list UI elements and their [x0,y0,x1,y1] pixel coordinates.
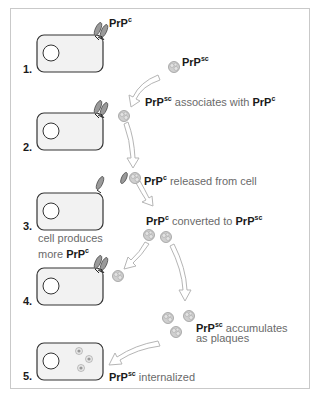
label-converted: PrPc converted to PrPsc [146,212,262,227]
prpsc-particle-icon [130,173,141,184]
prpsc-particle-icon [161,232,172,243]
cell-step-4 [37,255,109,305]
label-associates: PrPsc associates with PrPc [145,93,275,108]
cell-step-3 [37,176,105,230]
cell-step-2 [37,100,109,150]
label-accumulates-2: as plaques [196,332,249,344]
step-number-4: 4. [23,295,32,307]
prpc-protein-icon [95,176,106,193]
step-number-1: 1. [23,63,32,75]
cell-step-1 [37,22,109,72]
released-prpc-icon [119,172,128,185]
step-number-3: 3. [23,220,32,232]
label-prpc-top: PrPc [109,14,132,29]
prpsc-particle-icon [163,313,174,324]
prpsc-particle-icon [113,271,124,282]
prpsc-particle-icon [171,327,182,338]
label-prpsc-top: PrPsc [182,53,209,68]
label-released: PrPc released from cell [144,172,257,187]
cell-step-5 [37,343,103,380]
label-cell-produces-2: more PrPc [38,245,89,260]
prpsc-particle-icon [184,311,195,322]
label-internalized: PrPsc internalized [109,368,195,383]
prion-propagation-diagram [0,0,318,394]
step-number-2: 2. [23,141,32,153]
label-cell-produces-1: cell produces [38,232,103,244]
prpsc-particle-icon [169,62,180,73]
prpsc-particle-icon [144,230,155,241]
step-number-5: 5. [23,370,32,382]
prpsc-particle-icon [119,111,130,122]
